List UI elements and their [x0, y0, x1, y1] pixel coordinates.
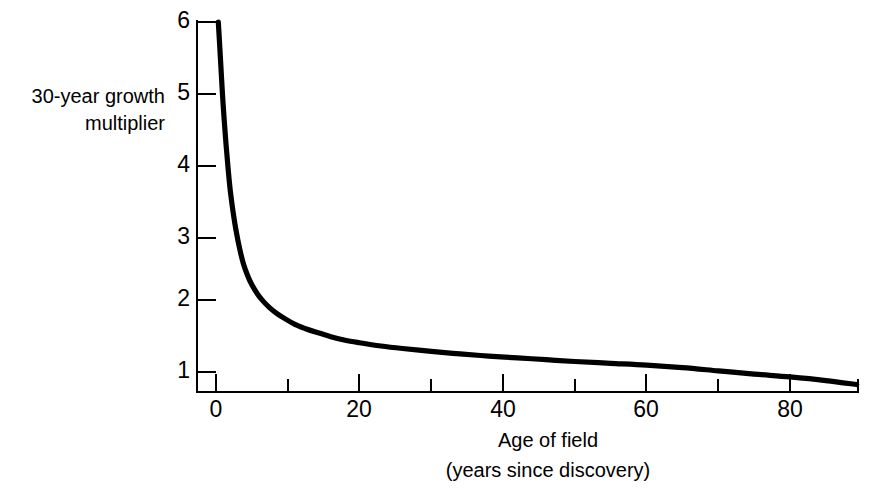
- x-tick-label-20: 20: [346, 396, 372, 422]
- y-axis-title-line2: multiplier: [85, 112, 165, 134]
- growth-multiplier-curve: [218, 22, 856, 385]
- x-tick-label-80: 80: [777, 396, 803, 422]
- chart-figure: 6 5 4 3 2 1 0 20 40 60: [0, 0, 878, 499]
- y-axis-title-line1: 30-year growth: [32, 85, 165, 107]
- x-tick-label-60: 60: [633, 396, 659, 422]
- y-axis-tick-labels: 6 5 4 3 2 1: [177, 7, 190, 383]
- y-axis-ticks: [197, 22, 216, 372]
- x-axis-title-line1: Age of field: [498, 429, 598, 451]
- x-tick-label-0: 0: [210, 396, 223, 422]
- x-axis-title: Age of field (years since discovery): [446, 429, 651, 481]
- chart-canvas: 6 5 4 3 2 1 0 20 40 60: [0, 0, 878, 499]
- y-tick-label-6: 6: [177, 7, 190, 33]
- y-tick-label-4: 4: [177, 151, 190, 177]
- y-tick-label-3: 3: [177, 223, 190, 249]
- x-axis-tick-labels: 0 20 40 60 80: [210, 396, 803, 422]
- y-tick-label-5: 5: [177, 79, 190, 105]
- x-axis-ticks-minor: [288, 379, 858, 392]
- x-axis-title-line2: (years since discovery): [446, 459, 651, 481]
- x-axis-ticks-major: [216, 374, 790, 392]
- y-axis-title: 30-year growth multiplier: [32, 85, 166, 134]
- y-tick-label-1: 1: [177, 357, 190, 383]
- x-tick-label-40: 40: [490, 396, 516, 422]
- y-tick-label-2: 2: [177, 285, 190, 311]
